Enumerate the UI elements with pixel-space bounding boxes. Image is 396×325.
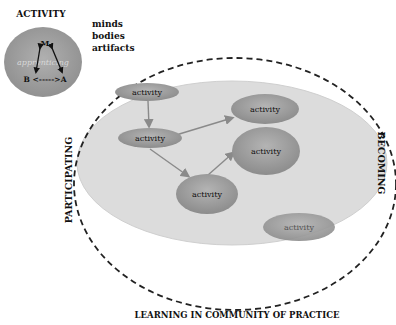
label-bodies: bodies xyxy=(92,31,125,41)
arrow-1-2-icon xyxy=(148,101,149,126)
label-artifacts: artifacts xyxy=(92,43,135,53)
svg-text:activity: activity xyxy=(192,190,222,199)
activity-node-1[interactable]: activity xyxy=(115,83,179,101)
label-minds: minds xyxy=(92,19,123,29)
svg-text:activity: activity xyxy=(132,88,162,97)
activity-node-2[interactable]: activity xyxy=(118,128,182,148)
b-a-relation: B <----->A xyxy=(24,75,67,84)
activity-node-4[interactable]: activity xyxy=(232,127,300,175)
diagram-canvas: ACTIVITY apprenticing M B <----->A minds… xyxy=(0,0,396,325)
svg-text:activity: activity xyxy=(250,105,280,114)
svg-text:activity: activity xyxy=(251,147,281,156)
learning-community-label: LEARNING IN COMMUNITY OF PRACTICE xyxy=(135,310,340,320)
becoming-label: BECOMING xyxy=(376,132,387,195)
activity-node-6[interactable]: activity xyxy=(263,213,335,241)
diagram-svg: ACTIVITY apprenticing M B <----->A minds… xyxy=(0,0,396,325)
activity-panel: ACTIVITY apprenticing M B <----->A minds… xyxy=(4,9,135,97)
svg-text:activity: activity xyxy=(135,134,165,143)
apprenticing-watermark: apprenticing xyxy=(17,58,69,67)
activity-title: ACTIVITY xyxy=(15,9,66,19)
svg-text:activity: activity xyxy=(284,223,314,232)
activity-node-5[interactable]: activity xyxy=(176,174,238,214)
vertex-m: M xyxy=(41,38,50,48)
activity-node-3[interactable]: activity xyxy=(231,94,299,124)
participating-label: PARTICIPATING xyxy=(63,137,74,224)
